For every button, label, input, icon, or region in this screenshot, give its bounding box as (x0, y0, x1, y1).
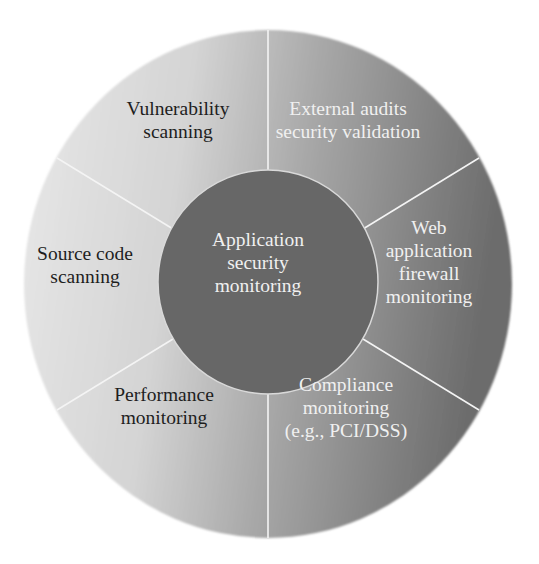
segment-label-line: monitoring (114, 406, 214, 429)
segment-label-line: monitoring (285, 396, 407, 419)
segment-label-line: (e.g., PCI/DSS) (285, 419, 407, 442)
segment-label-line: External audits (276, 97, 421, 120)
segment-label-line: monitoring (386, 285, 473, 308)
segment-label-line: security validation (276, 120, 421, 143)
segment-source-code-scanning: Source code scanning (37, 242, 133, 288)
center-label-line: Application (212, 228, 304, 251)
segment-compliance-monitoring: Compliance monitoring (e.g., PCI/DSS) (285, 373, 407, 442)
center-label-line: security (212, 251, 304, 274)
segment-label-line: application (386, 239, 473, 262)
segment-label-line: scanning (37, 265, 133, 288)
segment-label-line: scanning (127, 120, 230, 143)
segment-label-line: firewall (386, 262, 473, 285)
segment-label-line: Performance (114, 383, 214, 406)
segment-label-line: Source code (37, 242, 133, 265)
segment-label-line: Web (386, 216, 473, 239)
segment-vulnerability-scanning: Vulnerability scanning (127, 97, 230, 143)
center-label: Application security monitoring (212, 228, 304, 297)
segment-external-audits: External audits security validation (276, 97, 421, 143)
segment-label-line: Vulnerability (127, 97, 230, 120)
segment-performance-monitoring: Performance monitoring (114, 383, 214, 429)
segment-label-line: Compliance (285, 373, 407, 396)
center-label-line: monitoring (212, 274, 304, 297)
segment-waf-monitoring: Web application firewall monitoring (386, 216, 473, 308)
